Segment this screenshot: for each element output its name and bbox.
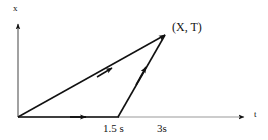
tick-label-3s: 3s bbox=[157, 123, 167, 134]
t-axis-label: t bbox=[254, 110, 257, 119]
x-axis-label: x bbox=[13, 4, 18, 13]
boost-segment-midarrow bbox=[136, 67, 146, 85]
direct-worldline bbox=[18, 35, 165, 117]
tick-label-1-5s: 1.5 s bbox=[103, 123, 124, 134]
event-point-label: (X, T) bbox=[172, 21, 202, 33]
diagram-canvas bbox=[0, 0, 268, 140]
spacetime-diagram-figure: x t 1.5 s 3s (X, T) bbox=[0, 0, 268, 140]
